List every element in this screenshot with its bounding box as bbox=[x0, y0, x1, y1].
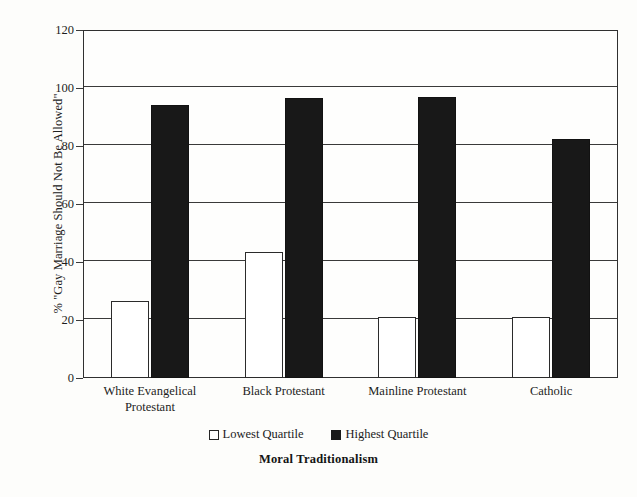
category-label: White EvangelicalProtestant bbox=[83, 383, 217, 415]
legend-swatch-filled-square-icon bbox=[331, 430, 341, 440]
y-tick-mark-20 bbox=[76, 320, 83, 321]
bar-lowest-quartile bbox=[111, 301, 149, 378]
y-tick-label-20: 20 bbox=[30, 313, 74, 328]
bar-group bbox=[217, 30, 351, 378]
y-tick-label-60: 60 bbox=[30, 197, 74, 212]
y-tick-mark-100 bbox=[76, 88, 83, 89]
bar-highest-quartile bbox=[285, 98, 323, 378]
category-label-line2: Protestant bbox=[83, 399, 217, 415]
bar-highest-quartile bbox=[151, 105, 189, 378]
bar-lowest-quartile bbox=[378, 317, 416, 378]
y-tick-label-0: 0 bbox=[30, 371, 74, 386]
bar-group bbox=[351, 30, 485, 378]
chart-legend: Lowest Quartile Highest Quartile bbox=[0, 427, 637, 442]
category-label-line1: Mainline Protestant bbox=[351, 383, 485, 399]
y-tick-label-120: 120 bbox=[30, 23, 74, 38]
legend-label-lowest-quartile: Lowest Quartile bbox=[223, 427, 304, 442]
y-tick-label-80: 80 bbox=[30, 139, 74, 154]
y-tick-mark-80 bbox=[76, 146, 83, 147]
legend-swatch-hollow-square-icon bbox=[209, 430, 219, 440]
y-tick-mark-120 bbox=[76, 30, 83, 31]
y-tick-mark-60 bbox=[76, 204, 83, 205]
category-label-line1: Catholic bbox=[484, 383, 618, 399]
category-label: Catholic bbox=[484, 383, 618, 399]
x-axis-title: Moral Traditionalism bbox=[0, 452, 637, 467]
y-tick-label-40: 40 bbox=[30, 255, 74, 270]
bar-group bbox=[83, 30, 217, 378]
category-label: Mainline Protestant bbox=[351, 383, 485, 399]
bar-chart-figure: % "Gay Marriage Should Not Be Allowed" 0… bbox=[0, 0, 637, 497]
category-label-line1: White Evangelical bbox=[83, 383, 217, 399]
y-tick-mark-0 bbox=[76, 378, 83, 379]
category-label-line1: Black Protestant bbox=[217, 383, 351, 399]
legend-item-lowest-quartile: Lowest Quartile bbox=[209, 427, 304, 442]
category-labels: White EvangelicalProtestantBlack Protest… bbox=[83, 383, 618, 427]
y-tick-label-100: 100 bbox=[30, 81, 74, 96]
bar-lowest-quartile bbox=[512, 317, 550, 378]
bar-group bbox=[484, 30, 618, 378]
legend-label-highest-quartile: Highest Quartile bbox=[345, 427, 428, 442]
y-tick-mark-40 bbox=[76, 262, 83, 263]
legend-item-highest-quartile: Highest Quartile bbox=[331, 427, 428, 442]
bars-layer bbox=[83, 30, 618, 378]
bar-lowest-quartile bbox=[245, 252, 283, 378]
bar-highest-quartile bbox=[552, 139, 590, 378]
category-label: Black Protestant bbox=[217, 383, 351, 399]
bar-highest-quartile bbox=[418, 97, 456, 378]
